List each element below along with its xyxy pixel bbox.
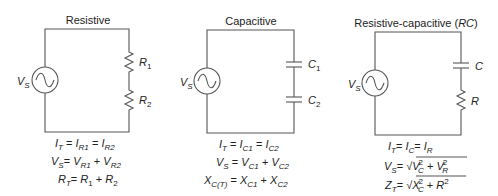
source-label: VS: [180, 76, 193, 91]
source-label: VS: [348, 78, 361, 93]
capacitive-circuit: Capacitive VS C1 C2 IT = IC1 = IC2 VS = …: [180, 15, 321, 189]
circuit-title: Resistive-capacitive (RC): [354, 17, 477, 29]
circuit-title: Capacitive: [225, 15, 276, 27]
equation: IT = IR1 = IR2: [55, 137, 115, 152]
component-label: C: [475, 60, 483, 72]
equation: VS= √V2C + V2R: [384, 158, 448, 175]
equation: VS = VC1 + VC2: [216, 156, 290, 171]
component-label: R1: [139, 56, 152, 71]
wire: [45, 93, 129, 132]
resistive-circuit: Resistive VS R1 R2 IT = IR1 = IR2 VS= VR…: [17, 14, 152, 188]
equation: IT= IC= IR: [388, 140, 433, 155]
wire: [207, 30, 294, 68]
capacitor-icon: [286, 97, 302, 102]
component-label: R2: [139, 94, 152, 109]
equation: XC(T) = XC1 + XC2: [203, 174, 288, 189]
wire: [45, 29, 129, 67]
circuit-title: Resistive: [66, 14, 111, 26]
rc-circuit: Resistive-capacitive (RC) VS C R IT= IC=…: [348, 17, 483, 194]
component-label: C2: [308, 94, 321, 109]
circuit-diagrams: Resistive VS R1 R2 IT = IR1 = IR2 VS= VR…: [0, 0, 498, 196]
equation: IT = IC1 = IC2: [219, 138, 279, 153]
resistor-icon: [125, 88, 133, 112]
component-label: C1: [308, 58, 321, 73]
capacitor-icon: [453, 63, 469, 68]
ac-source-icon: [194, 68, 220, 94]
wire: [207, 94, 294, 133]
wire: [375, 32, 461, 70]
component-label: R: [471, 95, 479, 107]
equation: ZT= √X2C + R2: [384, 177, 449, 194]
resistor-icon: [125, 50, 133, 74]
resistor-icon: [457, 88, 465, 112]
ac-source-icon: [362, 70, 388, 96]
source-label: VS: [17, 75, 30, 90]
wire: [375, 96, 461, 135]
capacitor-icon: [286, 62, 302, 67]
ac-source-icon: [32, 67, 58, 93]
equation: VS= VR1 + VR2: [51, 155, 121, 170]
equation: RT= R1 + R2: [58, 173, 118, 188]
